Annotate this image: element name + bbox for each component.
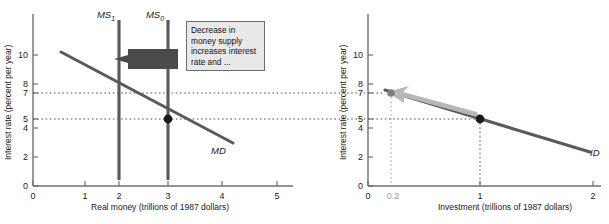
y-tick-label-5: 5: [23, 114, 28, 124]
x-tick-label-0-2: 0.2: [387, 191, 400, 201]
y-axis-ticks: [368, 55, 373, 186]
x-axis-title: Investment (trillions of 1987 dollars): [438, 202, 572, 212]
investment-point-initial: [476, 115, 485, 124]
y-tick-label-8: 8: [358, 79, 363, 89]
y-tick-label-10: 10: [18, 50, 28, 60]
y-tick-label-7: 7: [23, 88, 28, 98]
y-tick-label-4: 4: [23, 123, 28, 133]
y-tick-label-8: 8: [23, 79, 28, 89]
y-tick-label-2: 2: [23, 152, 28, 162]
y-tick-label-7: 7: [358, 88, 363, 98]
y-tick-label-0: 0: [23, 181, 28, 191]
investment-demand-svg: Interest rate (percent per year) Investm…: [305, 0, 609, 224]
curve-label-ms0: MS0: [146, 9, 164, 22]
y-axis-title: Interest rate (percent per year): [338, 45, 348, 160]
x-tick-label-3: 3: [165, 191, 170, 201]
investment-point-new: [387, 89, 395, 97]
x-tick-label-2: 2: [590, 191, 595, 201]
x-tick-label-1: 1: [82, 191, 87, 201]
economics-figure: Interest rate (percent per year) Real mo…: [0, 0, 609, 224]
y-tick-label-2: 2: [358, 152, 363, 162]
x-tick-label-5: 5: [274, 191, 279, 201]
y-tick-label-10: 10: [353, 50, 363, 60]
callout-decrease-money-supply: Decrease in money supply increases inter…: [186, 21, 265, 71]
curve-label-ms1: MS1: [97, 9, 115, 22]
x-tick-label-2: 2: [116, 191, 121, 201]
y-tick-label-0: 0: [358, 181, 363, 191]
y-axis-ticks: [33, 55, 38, 186]
x-tick-label-4: 4: [219, 191, 224, 201]
x-tick-label-0: 0: [30, 191, 35, 201]
y-tick-label-4: 4: [358, 123, 363, 133]
chart-panel-investment-demand: Interest rate (percent per year) Investm…: [305, 0, 609, 224]
x-axis-title: Real money (trillions of 1987 dollars): [91, 202, 229, 212]
x-tick-label-1: 1: [477, 191, 482, 201]
x-axis-ticks: [33, 181, 277, 186]
leftward-shift-arrow: [114, 49, 178, 69]
equilibrium-point-initial: [164, 115, 173, 124]
y-axis-title: Interest rate (percent per year): [3, 45, 13, 160]
chart-panel-money-market: Interest rate (percent per year) Real mo…: [0, 0, 305, 224]
decrease-investment-arrow: [387, 86, 480, 122]
curve-label-md: MD: [211, 145, 226, 156]
y-tick-label-5: 5: [358, 114, 363, 124]
x-tick-label-0: 0: [365, 191, 370, 201]
curve-label-id: ID: [590, 147, 600, 158]
